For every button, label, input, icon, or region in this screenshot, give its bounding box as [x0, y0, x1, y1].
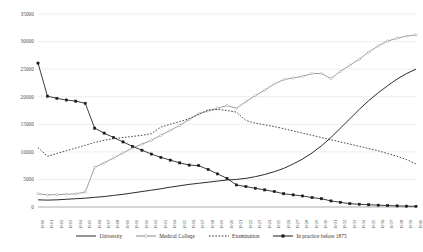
data-point-marker: [377, 204, 379, 206]
legend-item-label: Medical College: [159, 233, 195, 239]
data-point-marker: [320, 198, 322, 200]
x-axis-tick-label: 1919: [219, 220, 224, 229]
x-axis-tick-label: 1908: [115, 220, 120, 229]
x-axis-tick-label: 1902: [59, 220, 64, 229]
legend-item-in-practice-before-1875[interactable]: In practice before 1875: [273, 233, 346, 239]
x-axis-tick-label: 1925: [276, 220, 281, 229]
series-line: [38, 69, 416, 200]
data-point-marker: [141, 149, 143, 151]
data-point-marker: [415, 205, 417, 207]
x-axis-tick-label: 1916: [191, 220, 196, 229]
data-point-marker: [282, 78, 285, 81]
data-point-marker: [292, 194, 294, 196]
data-point-marker: [368, 204, 370, 206]
data-point-marker: [405, 205, 407, 207]
data-point-marker: [396, 37, 399, 40]
data-point-marker: [46, 95, 48, 97]
y-axis-tick-label: 0: [2, 204, 34, 210]
x-axis-tick-label: 1938: [399, 220, 404, 229]
line-chart: 05000100001500020000250003000035000 1900…: [0, 0, 423, 252]
data-point-marker: [226, 177, 228, 179]
data-point-marker: [235, 184, 237, 186]
data-point-marker: [37, 192, 40, 195]
data-point-marker: [207, 168, 209, 170]
x-axis-tick-label: 1931: [333, 220, 338, 229]
chart-plot-area: [0, 0, 423, 252]
data-point-marker: [74, 192, 77, 195]
data-point-marker: [103, 132, 105, 134]
x-axis-tick-label: 1900: [40, 220, 45, 229]
x-axis-tick-label: 1921: [238, 220, 243, 229]
data-point-marker: [93, 166, 96, 169]
legend-item-medical-college[interactable]: Medical College: [136, 233, 195, 239]
data-point-marker: [387, 204, 389, 206]
data-point-marker: [358, 203, 360, 205]
x-axis-tick-label: 1926: [286, 220, 291, 229]
x-axis-tick-label: 1912: [153, 220, 158, 229]
x-axis-tick-label: 1929: [314, 220, 319, 229]
legend-item-university[interactable]: University: [76, 233, 122, 239]
x-axis-tick-label: 1913: [163, 220, 168, 229]
legend-item-examination[interactable]: Examination: [209, 233, 260, 239]
data-point-marker: [198, 165, 200, 167]
data-point-marker: [330, 200, 332, 202]
data-point-marker: [37, 62, 39, 64]
data-point-marker: [141, 143, 144, 146]
data-point-marker: [349, 203, 351, 205]
x-axis-tick-label: 1905: [87, 220, 92, 229]
x-axis-tick-label: 1906: [97, 220, 102, 229]
data-point-marker: [113, 136, 115, 138]
x-axis-tick-label: 1901: [49, 220, 54, 229]
data-point-marker: [46, 193, 49, 196]
x-axis-tick-label: 1918: [210, 220, 215, 229]
x-axis-tick-label: 1937: [389, 220, 394, 229]
y-axis-tick-label: 25000: [2, 66, 34, 72]
data-point-marker: [283, 193, 285, 195]
data-point-marker: [131, 145, 133, 147]
x-axis-tick-label: 1917: [200, 220, 205, 229]
y-axis-tick-label: 35000: [2, 11, 34, 17]
series-line: [38, 63, 416, 206]
y-axis-tick-label: 5000: [2, 176, 34, 182]
x-axis-tick-label: 1904: [78, 220, 83, 229]
x-axis-tick-label: 1914: [172, 220, 177, 229]
series-line: [38, 109, 416, 164]
legend-swatch-icon: [209, 233, 229, 239]
x-axis-tick-label: 1928: [304, 220, 309, 229]
data-point-marker: [56, 97, 58, 99]
x-axis-tick-label: 1910: [134, 220, 139, 229]
x-axis-tick-label: 1935: [371, 220, 376, 229]
x-axis-tick-label: 1940: [418, 220, 423, 229]
y-axis-tick-label: 10000: [2, 149, 34, 155]
legend-swatch-icon: [136, 233, 156, 239]
x-axis-tick-label: 1920: [229, 220, 234, 229]
data-point-marker: [415, 34, 418, 37]
data-point-marker: [254, 187, 256, 189]
legend-item-label: In practice before 1875: [296, 233, 346, 239]
data-point-marker: [245, 186, 247, 188]
x-axis-tick-label: 1933: [352, 220, 357, 229]
data-point-marker: [311, 197, 313, 199]
y-axis-tick-label: 20000: [2, 94, 34, 100]
data-point-marker: [75, 100, 77, 102]
data-point-marker: [84, 102, 86, 104]
data-point-marker: [396, 205, 398, 207]
legend-swatch-icon: [273, 233, 293, 239]
data-point-marker: [84, 191, 87, 194]
data-point-marker: [122, 141, 124, 143]
y-axis-tick-label: 30000: [2, 38, 34, 44]
x-axis-tick-label: 1903: [68, 220, 73, 229]
data-point-marker: [160, 156, 162, 158]
legend-item-label: Examination: [232, 233, 260, 239]
data-point-marker: [301, 75, 304, 78]
data-point-marker: [339, 201, 341, 203]
data-point-marker: [226, 104, 229, 107]
data-point-marker: [264, 189, 266, 191]
data-point-marker: [405, 35, 408, 38]
x-axis-tick-label: 1936: [380, 220, 385, 229]
x-axis-tick-label: 1930: [323, 220, 328, 229]
y-axis-tick-label: 15000: [2, 121, 34, 127]
data-point-marker: [302, 195, 304, 197]
x-axis-tick-label: 1932: [342, 220, 347, 229]
series-layer: [37, 34, 418, 208]
